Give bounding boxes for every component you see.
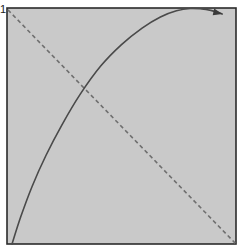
- plot-canvas: [0, 0, 248, 249]
- chart-figure: 1: [0, 0, 248, 249]
- y-axis-tick-label-1: 1: [0, 4, 6, 15]
